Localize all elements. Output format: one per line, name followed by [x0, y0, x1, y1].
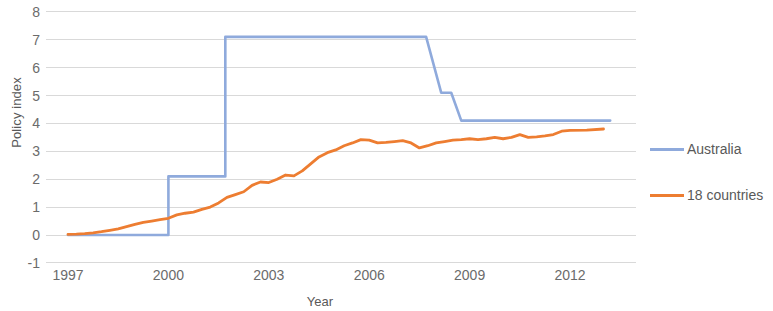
- legend-label-australia: Australia: [687, 141, 741, 157]
- legend-item-australia: Australia: [650, 138, 773, 160]
- data-series-layer: [68, 37, 610, 235]
- legend-swatch-australia: [650, 148, 684, 151]
- x-axis-title: Year: [0, 294, 640, 309]
- series-line-18-countries: [68, 129, 604, 234]
- policy-index-line-chart: Policy index 876543210-1 199720002003200…: [0, 0, 773, 311]
- legend-item-18-countries: 18 countries: [650, 184, 773, 206]
- legend-swatch-18-countries: [650, 194, 684, 197]
- chart-legend: Australia 18 countries: [650, 138, 773, 230]
- legend-label-18-countries: 18 countries: [687, 187, 763, 203]
